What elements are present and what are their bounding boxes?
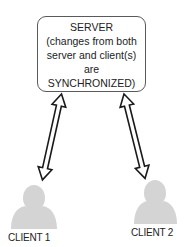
client-1-person-icon (11, 185, 57, 229)
client-1-label: CLIENT 1 (8, 232, 50, 243)
sync-arrow-client-1 (36, 92, 69, 181)
client-2-person-icon (134, 180, 177, 224)
sync-arrow-client-2 (117, 92, 152, 180)
client-2-label: CLIENT 2 (131, 227, 173, 238)
